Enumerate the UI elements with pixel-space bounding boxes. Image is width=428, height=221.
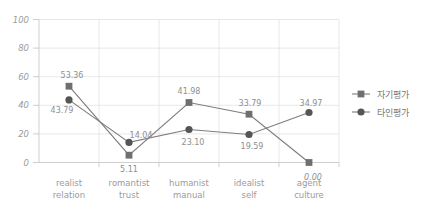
horizontal-gridlines bbox=[39, 20, 339, 134]
y-tick-40: 40 bbox=[18, 100, 29, 110]
y-tick-0: 0 bbox=[24, 158, 29, 168]
data-label-s2-1: 14.04 bbox=[130, 131, 153, 140]
legend-square-icon bbox=[358, 91, 365, 98]
marker-square-3[interactable] bbox=[246, 111, 253, 118]
marker-circle-2[interactable] bbox=[185, 126, 192, 133]
marker-square-1[interactable] bbox=[126, 152, 133, 159]
data-label-s2-2: 23.10 bbox=[182, 138, 205, 147]
marker-square-0[interactable] bbox=[66, 83, 73, 90]
x-tick-1-line2: trust bbox=[119, 190, 140, 200]
y-tick-20: 20 bbox=[18, 129, 29, 139]
legend-item-self-eval[interactable]: 자기평가 bbox=[352, 90, 409, 100]
legend-label-other-eval: 타인평가 bbox=[377, 108, 409, 118]
x-tick-0-line1: realist bbox=[56, 178, 83, 188]
legend-item-other-eval[interactable]: 타인평가 bbox=[352, 108, 409, 118]
data-label-s2-4: 34.97 bbox=[300, 99, 323, 108]
x-axis-tick-labels: realist relation romantist trust humanis… bbox=[53, 178, 324, 200]
data-label-s2-0: 43.79 bbox=[51, 106, 74, 115]
marker-circle-4[interactable] bbox=[305, 109, 312, 116]
marker-square-4[interactable] bbox=[306, 159, 313, 166]
y-tick-80: 80 bbox=[18, 43, 29, 53]
data-label-s1-3: 33.79 bbox=[239, 99, 262, 108]
y-axis-tick-labels: 100 80 60 40 20 0 bbox=[13, 15, 29, 168]
y-tick-100: 100 bbox=[13, 15, 29, 25]
marker-circle-0[interactable] bbox=[65, 96, 72, 103]
data-label-s2-3: 19.59 bbox=[241, 142, 264, 151]
x-tick-3-line1: idealist bbox=[234, 178, 265, 188]
x-tick-3-line2: self bbox=[241, 190, 257, 200]
data-label-s1-2: 41.98 bbox=[178, 87, 201, 96]
legend-circle-icon bbox=[357, 108, 364, 115]
x-tick-2-line2: manual bbox=[173, 190, 205, 200]
line-chart: 100 80 60 40 20 0 53.36 5.11 bbox=[0, 0, 428, 221]
y-tick-60: 60 bbox=[18, 72, 29, 82]
marker-square-2[interactable] bbox=[186, 99, 193, 106]
legend-label-self-eval: 자기평가 bbox=[377, 90, 409, 100]
x-tick-4-line1: agent bbox=[297, 178, 322, 188]
marker-circle-3[interactable] bbox=[245, 131, 252, 138]
series-self-eval-line bbox=[69, 86, 309, 162]
x-tick-0-line2: relation bbox=[53, 190, 85, 200]
x-tick-2-line1: humanist bbox=[169, 178, 209, 188]
data-labels-self-eval: 53.36 5.11 41.98 33.79 0.00 bbox=[61, 71, 322, 182]
x-tick-4-line2: culture bbox=[294, 190, 324, 200]
x-tick-1-line1: romantist bbox=[109, 178, 151, 188]
series-other-eval-line bbox=[69, 100, 309, 142]
chart-canvas: 100 80 60 40 20 0 53.36 5.11 bbox=[0, 0, 428, 221]
chart-legend: 자기평가 타인평가 bbox=[352, 90, 409, 118]
data-labels-other-eval: 43.79 14.04 23.10 19.59 34.97 bbox=[51, 99, 323, 151]
data-label-s1-1: 5.11 bbox=[120, 165, 138, 174]
data-label-s1-0: 53.36 bbox=[61, 71, 84, 80]
